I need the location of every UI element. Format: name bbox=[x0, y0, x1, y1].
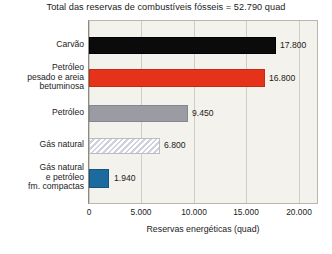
xtick-label-20000: 20.000 bbox=[286, 207, 312, 217]
category-line: Gás natural bbox=[2, 140, 84, 150]
value-label-petroleo: 9.450 bbox=[192, 109, 214, 118]
bar-petroleo-pesado bbox=[89, 69, 265, 87]
bar-chart: Total das reservas de combustíveis fósse… bbox=[0, 0, 332, 254]
category-line: Carvão bbox=[2, 40, 84, 50]
value-label-carvao: 17.800 bbox=[280, 41, 306, 50]
plot-area: 17.800 16.800 9.450 6.800 1.940 bbox=[88, 20, 318, 204]
x-axis-title: Reservas energéticas (quad) bbox=[88, 224, 318, 234]
chart-title: Total das reservas de combustíveis fósse… bbox=[0, 2, 332, 12]
category-line: fm. compactas bbox=[2, 182, 84, 192]
category-label-petroleo-pesado: Petróleo pesado e areia betuminosa bbox=[2, 63, 84, 92]
category-line: betuminosa bbox=[2, 82, 84, 92]
xtick-label-15000: 15.000 bbox=[233, 207, 259, 217]
xtick-label-10000: 10.000 bbox=[181, 207, 207, 217]
category-label-gas-natural: Gás natural bbox=[2, 140, 84, 150]
value-label-petroleo-pesado: 16.800 bbox=[269, 74, 295, 83]
bar-petroleo bbox=[89, 105, 188, 122]
xtick-label-5000: 5.000 bbox=[131, 207, 152, 217]
value-label-gas-natural-petroleo-compactas: 1.940 bbox=[114, 174, 136, 183]
bar-carvao bbox=[89, 37, 276, 54]
xtick-label-0: 0 bbox=[87, 207, 92, 217]
category-label-carvao: Carvão bbox=[2, 40, 84, 50]
category-label-petroleo: Petróleo bbox=[2, 108, 84, 118]
category-label-gas-natural-petroleo-compactas: Gás natural e petróleo fm. compactas bbox=[2, 163, 84, 192]
plot-inner: 17.800 16.800 9.450 6.800 1.940 bbox=[89, 21, 317, 203]
bar-gas-natural-petroleo-compactas bbox=[89, 169, 109, 188]
bar-gas-natural bbox=[89, 138, 160, 154]
value-label-gas-natural: 6.800 bbox=[164, 141, 186, 150]
category-line: Petróleo bbox=[2, 108, 84, 118]
